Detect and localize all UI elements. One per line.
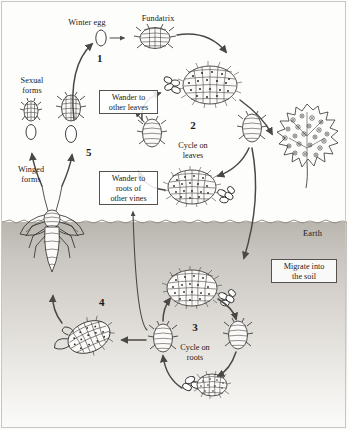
sexual-form-egg-left xyxy=(26,125,36,140)
winged-nymph-stage4 xyxy=(48,309,121,369)
winter-egg-glyph xyxy=(96,30,106,46)
gall-aphid-with-eggs-top xyxy=(163,61,242,108)
arrow-to-wander-roots-box xyxy=(133,212,147,330)
root-cycle-bottom-aphid xyxy=(193,371,231,399)
root-egg-cluster xyxy=(218,288,237,306)
winged-adult-glyph xyxy=(20,186,84,272)
label-winged-forms: Winged forms xyxy=(6,165,56,185)
root-cycle-nymph-right xyxy=(223,318,253,349)
label-sexual-forms: Sexual forms xyxy=(8,76,56,96)
stage-number-1: 1 xyxy=(97,52,103,64)
stage-number-4: 4 xyxy=(99,296,105,308)
stage-2-number: 2 xyxy=(166,120,220,130)
sexual-form-male xyxy=(20,98,42,121)
egg-cluster-lower xyxy=(217,185,236,203)
arrow-stage4-to-winged-forms xyxy=(53,296,62,323)
arrow-to-wander-leaves-box xyxy=(136,113,144,122)
stage-2-label: Cycle on leaves xyxy=(178,141,207,160)
root-aphid-with-eggs xyxy=(162,266,237,309)
arrow-fundatrix-to-gall xyxy=(177,34,226,52)
phylloxera-life-cycle-diagram: Winter egg Fundatrix 1 Sexual forms 5 Wi… xyxy=(0,0,349,431)
stage-3-caption: 3 Cycle on roots xyxy=(168,312,222,363)
stage-2-caption: 2 Cycle on leaves xyxy=(166,110,220,161)
leaf-cycle-nymph-right xyxy=(237,111,267,142)
callout-wander-to-other-leaves: Wander to other leaves xyxy=(99,90,158,114)
fundatrix-glyph xyxy=(134,24,176,49)
stage-3-number: 3 xyxy=(168,322,222,332)
callout-wander-to-roots: Wander to roots of other vines xyxy=(99,171,158,205)
label-winter-egg: Winter egg xyxy=(54,18,120,28)
sexual-form-egg-right xyxy=(66,126,77,143)
label-earth: Earth xyxy=(303,229,322,238)
leaf-cycle-nymph-left xyxy=(137,116,167,147)
stage-3-label: Cycle on roots xyxy=(180,343,209,362)
callout-migrate-into-soil: Migrate into the soil xyxy=(271,259,337,283)
arrow-winged-to-sexual-forms-right xyxy=(62,155,72,186)
egg-cluster xyxy=(163,76,181,95)
diagram-artwork xyxy=(0,0,349,431)
stage-number-5: 5 xyxy=(86,146,92,158)
sexual-form-female xyxy=(56,92,86,121)
arrow-nymph-to-lower-gall xyxy=(218,148,249,176)
arrow-migrate-into-soil xyxy=(244,148,256,258)
label-fundatrix: Fundatrix xyxy=(127,14,189,24)
grape-leaf-glyph xyxy=(277,104,338,188)
gall-aphid-with-eggs-lower xyxy=(163,166,236,207)
